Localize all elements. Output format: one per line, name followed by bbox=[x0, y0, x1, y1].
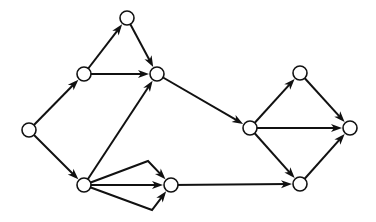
node-H bbox=[293, 66, 307, 80]
edge-G-J bbox=[250, 128, 292, 175]
arrowhead-icon bbox=[232, 115, 244, 124]
edge-F-J bbox=[171, 184, 288, 185]
node-F bbox=[164, 178, 178, 192]
arrowhead-icon bbox=[143, 81, 152, 92]
edge-H-I bbox=[300, 73, 342, 119]
directed-graph-diagram bbox=[0, 0, 376, 222]
node-A bbox=[22, 123, 36, 137]
edge-G-H bbox=[250, 82, 292, 128]
edge-D-G bbox=[157, 74, 240, 122]
node-G bbox=[243, 121, 257, 135]
node-D bbox=[150, 67, 164, 81]
edge-E-F bbox=[84, 161, 163, 185]
edge-A-E bbox=[29, 130, 76, 177]
edge-J-I bbox=[300, 137, 342, 184]
node-J bbox=[293, 177, 307, 191]
nodes-layer bbox=[22, 11, 357, 192]
edge-B-C bbox=[84, 28, 120, 74]
edge-E-F bbox=[84, 185, 164, 210]
node-B bbox=[77, 67, 91, 81]
node-C bbox=[120, 11, 134, 25]
node-I bbox=[343, 121, 357, 135]
node-E bbox=[77, 178, 91, 192]
edge-E-D bbox=[84, 84, 150, 185]
edge-A-B bbox=[29, 83, 76, 130]
